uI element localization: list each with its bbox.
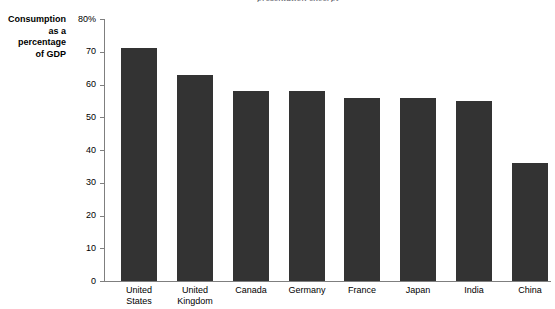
y-axis-tick-label: 20	[56, 211, 96, 220]
plot-area: 01020304050607080% UnitedStatesUnitedKin…	[104, 19, 551, 281]
x-axis-label-line: France	[331, 285, 393, 296]
y-axis-tick	[100, 117, 105, 118]
y-axis-tick-label: 80%	[56, 15, 96, 24]
bar[interactable]	[344, 98, 380, 281]
bar[interactable]	[400, 98, 436, 281]
x-axis-label: Japan	[387, 285, 449, 296]
y-axis-tick	[100, 150, 105, 151]
bar[interactable]	[456, 101, 492, 281]
y-axis-tick-label: 30	[56, 178, 96, 187]
y-axis-title-line-2: as a	[0, 26, 66, 38]
y-axis-tick	[100, 52, 105, 53]
y-axis-tick-label: 40	[56, 146, 96, 155]
x-axis-label-line: United	[108, 285, 170, 296]
bar[interactable]	[177, 75, 213, 281]
x-axis-label-line: China	[499, 285, 555, 296]
y-axis-tick-label: 10	[56, 244, 96, 253]
clipped-top-caption: presentation excerpt	[178, 0, 418, 2]
x-axis-label-line: States	[108, 296, 170, 307]
bar[interactable]	[121, 48, 157, 281]
y-axis-tick-label: 0	[56, 277, 96, 286]
y-axis-tick	[100, 85, 105, 86]
x-axis-line	[104, 281, 551, 282]
bar[interactable]	[512, 163, 548, 281]
x-axis-label: Canada	[220, 285, 282, 296]
x-axis-label: Germany	[276, 285, 338, 296]
y-axis-tick	[100, 281, 105, 282]
x-axis-label-line: India	[443, 285, 505, 296]
y-axis-tick-label: 60	[56, 80, 96, 89]
y-axis-tick-label: 50	[56, 113, 96, 122]
x-axis-label: China	[499, 285, 555, 296]
x-axis-label: India	[443, 285, 505, 296]
chart-figure: presentation excerpt Consumption as a pe…	[0, 0, 555, 309]
bar[interactable]	[233, 91, 269, 281]
x-axis-label: UnitedStates	[108, 285, 170, 307]
y-axis-tick	[100, 19, 105, 20]
x-axis-label: UnitedKingdom	[164, 285, 226, 307]
y-axis-tick-label: 70	[56, 47, 96, 56]
y-axis-tick	[100, 183, 105, 184]
x-axis-label: France	[331, 285, 393, 296]
x-axis-label-line: Kingdom	[164, 296, 226, 307]
bar[interactable]	[289, 91, 325, 281]
x-axis-label-line: Canada	[220, 285, 282, 296]
y-axis-tick	[100, 216, 105, 217]
y-axis-tick	[100, 248, 105, 249]
x-axis-label-line: Japan	[387, 285, 449, 296]
x-axis-label-line: Germany	[276, 285, 338, 296]
x-axis-label-line: United	[164, 285, 226, 296]
